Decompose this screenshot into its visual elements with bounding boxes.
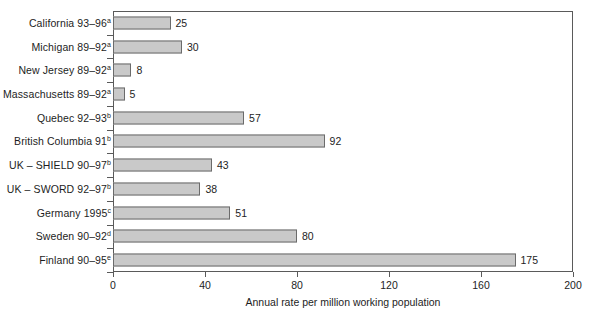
bar: [113, 135, 325, 148]
bar-row: UK – SWORD 92–97b38: [0, 177, 593, 201]
footnote-marker: a: [107, 88, 111, 95]
category-label: Michigan 89–92a: [31, 41, 111, 53]
category-tick: [107, 225, 113, 226]
value-axis-tick: [389, 272, 390, 277]
value-axis-tick: [205, 272, 206, 277]
category-tick: [107, 248, 113, 249]
bar: [113, 40, 182, 53]
bar-row: British Columbia 91b92: [0, 130, 593, 154]
category-label: British Columbia 91b: [14, 135, 111, 147]
bar-value-label: 25: [176, 17, 188, 29]
bar-value-label: 43: [217, 159, 229, 171]
bar: [113, 88, 125, 101]
value-axis-tick: [481, 272, 482, 277]
bar-chart: California 93–96a25Michigan 89–92a30New …: [0, 0, 593, 318]
footnote-marker: b: [107, 159, 111, 166]
value-axis-tick: [113, 272, 114, 277]
bar-value-label: 92: [330, 135, 342, 147]
category-tick: [107, 106, 113, 107]
footnote-marker: d: [107, 230, 111, 237]
footnote-marker: b: [107, 111, 111, 118]
category-tick: [107, 201, 113, 202]
bar-value-label: 57: [249, 112, 261, 124]
category-label: UK – SHIELD 90–97b: [9, 159, 111, 171]
bar: [113, 111, 244, 124]
footnote-marker: b: [107, 182, 111, 189]
bar: [113, 230, 297, 243]
bar-rows-container: California 93–96a25Michigan 89–92a30New …: [0, 11, 593, 272]
bar-row: Michigan 89–92a30: [0, 35, 593, 59]
bar: [113, 16, 171, 29]
bar-value-label: 80: [302, 230, 314, 242]
category-tick: [107, 82, 113, 83]
value-axis-tick-label: 200: [564, 279, 582, 291]
bar: [113, 182, 200, 195]
category-label: California 93–96a: [29, 17, 111, 29]
bar-row: Sweden 90–92d80: [0, 225, 593, 249]
bar-row: California 93–96a25: [0, 11, 593, 35]
bar-row: UK – SHIELD 90–97b43: [0, 153, 593, 177]
bar-value-label: 38: [205, 183, 217, 195]
category-tick: [107, 58, 113, 59]
footnote-marker: a: [107, 64, 111, 71]
value-axis-tick-label: 160: [472, 279, 490, 291]
category-label: Germany 1995c: [37, 207, 111, 219]
bar-value-label: 175: [521, 254, 539, 266]
bar-row: Finland 90–95e175: [0, 248, 593, 272]
bar-row: Germany 1995c51: [0, 201, 593, 225]
bar-value-label: 5: [130, 88, 136, 100]
category-tick: [107, 153, 113, 154]
bar: [113, 206, 230, 219]
category-label: New Jersey 89–92a: [18, 64, 111, 76]
value-axis-tick-label: 40: [199, 279, 211, 291]
footnote-marker: b: [107, 135, 111, 142]
category-label: Massachusetts 89–92a: [3, 88, 111, 100]
footnote-marker: e: [107, 254, 111, 261]
bar-row: Massachusetts 89–92a5: [0, 82, 593, 106]
category-tick: [107, 130, 113, 131]
bar-value-label: 8: [136, 64, 142, 76]
value-axis-tick: [573, 272, 574, 277]
category-label: Finland 90–95e: [39, 254, 111, 266]
bar: [113, 64, 131, 77]
category-tick: [107, 35, 113, 36]
footnote-marker: a: [107, 40, 111, 47]
bar-row: Quebec 92–93b57: [0, 106, 593, 130]
category-tick: [107, 177, 113, 178]
category-label: UK – SWORD 92–97b: [7, 183, 111, 195]
bar-row: New Jersey 89–92a8: [0, 58, 593, 82]
footnote-marker: c: [107, 206, 111, 213]
category-label: Sweden 90–92d: [36, 230, 111, 242]
value-axis-tick: [297, 272, 298, 277]
value-axis-tick-label: 120: [380, 279, 398, 291]
value-axis-tick-label: 80: [291, 279, 303, 291]
bar: [113, 159, 212, 172]
x-axis-title: Annual rate per million working populati…: [113, 296, 573, 308]
footnote-marker: a: [107, 16, 111, 23]
bar-value-label: 30: [187, 41, 199, 53]
bar: [113, 254, 516, 267]
bar-value-label: 51: [235, 207, 247, 219]
value-axis-tick-label: 0: [110, 279, 116, 291]
category-label: Quebec 92–93b: [37, 112, 111, 124]
